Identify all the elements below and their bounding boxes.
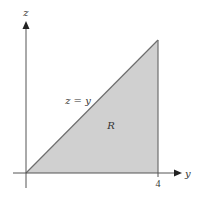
region-diagram: z y 4 z = y R xyxy=(0,0,197,202)
line-label: z = y xyxy=(64,95,91,106)
region-label: R xyxy=(106,120,115,131)
y-axis-arrow-icon xyxy=(174,170,182,177)
z-axis-arrow-icon xyxy=(23,21,30,29)
z-axis-label: z xyxy=(22,7,29,18)
y-axis-label: y xyxy=(184,168,191,179)
tick-label-4: 4 xyxy=(156,178,161,189)
